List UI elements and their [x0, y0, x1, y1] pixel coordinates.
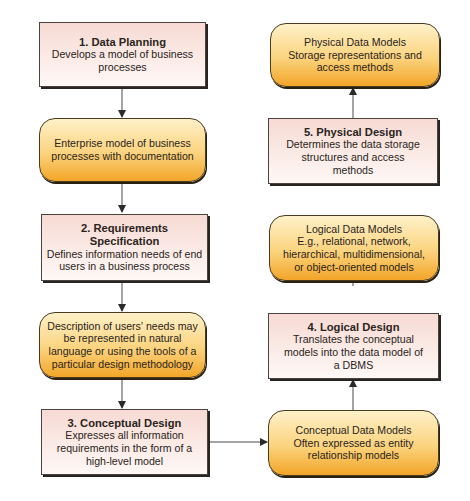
- conceptual-data-models-line: Conceptual Data Models: [295, 424, 411, 437]
- conceptual-design-title: 3. Conceptual Design: [68, 417, 182, 430]
- logical-data-models-line: Logical Data Models: [306, 223, 402, 236]
- logical-design-line: a DBMS: [334, 359, 373, 372]
- conceptual-design-line: high-level model: [86, 455, 163, 468]
- users-needs-description-box: Description of users' needs may be repre…: [39, 312, 206, 378]
- requirements-specification-line: users in a business process: [59, 260, 190, 273]
- users-needs-description-line: language or using the tools of a: [49, 345, 197, 358]
- enterprise-model-line: processes with documentation: [51, 150, 194, 163]
- conceptual-data-models-line: relationship models: [308, 449, 399, 462]
- physical-design-box: 5. Physical Design Determines the data s…: [268, 118, 438, 184]
- physical-data-models-box: Physical Data Models Storage representat…: [270, 23, 440, 87]
- conceptual-data-models-box: Conceptual Data Models Often expressed a…: [268, 410, 439, 476]
- physical-design-line: structures and access: [301, 151, 404, 164]
- physical-data-models-line: Physical Data Models: [304, 36, 406, 49]
- data-planning-line: Develops a model of business: [52, 48, 193, 61]
- conceptual-design-box: 3. Conceptual Design Expresses all infor…: [41, 409, 208, 475]
- users-needs-description-line: be represented in natural: [64, 332, 182, 345]
- logical-design-line: Translates the conceptual: [293, 333, 414, 346]
- physical-design-line: Determines the data storage: [286, 138, 420, 151]
- data-planning-title: 1. Data Planning: [79, 36, 166, 49]
- enterprise-model-line: Enterprise model of business: [54, 137, 191, 150]
- conceptual-design-line: Expresses all information: [65, 429, 183, 442]
- physical-design-line: methods: [333, 164, 374, 177]
- data-planning-line: processes: [98, 61, 146, 74]
- conceptual-data-models-line: Often expressed as entity: [293, 437, 413, 450]
- users-needs-description-line: Description of users' needs may: [47, 320, 197, 333]
- requirements-specification-box: 2. Requirements Specification Defines in…: [41, 214, 208, 281]
- physical-design-title: 5. Physical Design: [304, 126, 402, 139]
- physical-data-models-line: Storage representations and: [288, 49, 422, 62]
- logical-data-models-line: E.g., relational, network,: [297, 235, 411, 248]
- logical-design-box: 4. Logical Design Translates the concept…: [268, 313, 439, 379]
- logical-data-models-box: Logical Data Models E.g., relational, ne…: [269, 215, 439, 281]
- logical-data-models-line: or object-oriented models: [294, 261, 414, 274]
- users-needs-description-line: particular design methodology: [52, 358, 193, 371]
- requirements-specification-title: 2. Requirements Specification: [46, 222, 203, 247]
- enterprise-model-box: Enterprise model of business processes w…: [39, 118, 206, 182]
- logical-design-title: 4. Logical Design: [307, 321, 399, 334]
- physical-data-models-line: access methods: [317, 61, 394, 74]
- conceptual-design-line: requirements in the form of a: [57, 442, 192, 455]
- logical-design-line: models into the data model of: [284, 346, 423, 359]
- logical-data-models-line: hierarchical, multidimensional,: [283, 248, 425, 261]
- requirements-specification-line: Defines information needs of end: [47, 248, 202, 261]
- data-planning-box: 1. Data Planning Develops a model of bus…: [39, 22, 206, 87]
